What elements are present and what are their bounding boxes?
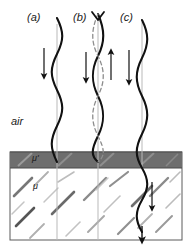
region-label-boundary-mu-prime: μ' [32,153,39,163]
panel-label-c: (c) [120,11,133,23]
wave-boundary-figure: (a) (b) (c) air μ' μ [0,0,192,252]
region-label-medium-mu: μ [33,181,38,191]
panel-label-a: (a) [27,11,40,23]
region-label-air: air [11,115,23,127]
figure-canvas [0,0,192,252]
panel-label-b: (b) [73,11,86,23]
